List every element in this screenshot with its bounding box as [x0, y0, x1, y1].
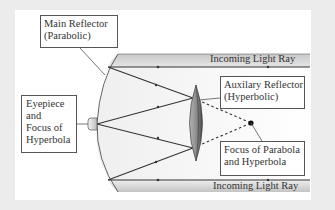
- main-reflector-label: Main Reflector (Parabolic): [40, 15, 118, 48]
- main-reflector-label-line2: (Parabolic): [44, 30, 114, 42]
- main-reflector-label-line1: Main Reflector: [44, 18, 114, 30]
- eyepiece-label-line1: Eyepiece: [26, 98, 73, 110]
- focus-label: Focus of Parabola and Hyperbola: [220, 141, 305, 176]
- eyepiece: [88, 118, 97, 130]
- leader-main-reflector: [80, 48, 105, 75]
- focus-label-line2: and Hyperbola: [224, 156, 301, 168]
- eyepiece-label-line2: and: [26, 110, 73, 122]
- eyepiece-label-line3: Focus of: [26, 122, 73, 134]
- focus-label-line1: Focus of Parabola: [224, 144, 301, 156]
- incoming-ray-top-label: Incoming Light Ray: [210, 53, 295, 64]
- auxiliary-reflector-label: Auxilary Reflector (Hyperbolic): [220, 76, 305, 109]
- auxiliary-label-line1: Auxilary Reflector: [224, 79, 301, 91]
- eyepiece-label-line4: Hyperbola: [26, 134, 73, 146]
- incoming-ray-bottom-label: Incoming Light Ray: [213, 180, 298, 191]
- eyepiece-label: Eyepiece and Focus of Hyperbola: [21, 95, 77, 153]
- auxiliary-label-line2: (Hyperbolic): [224, 91, 301, 103]
